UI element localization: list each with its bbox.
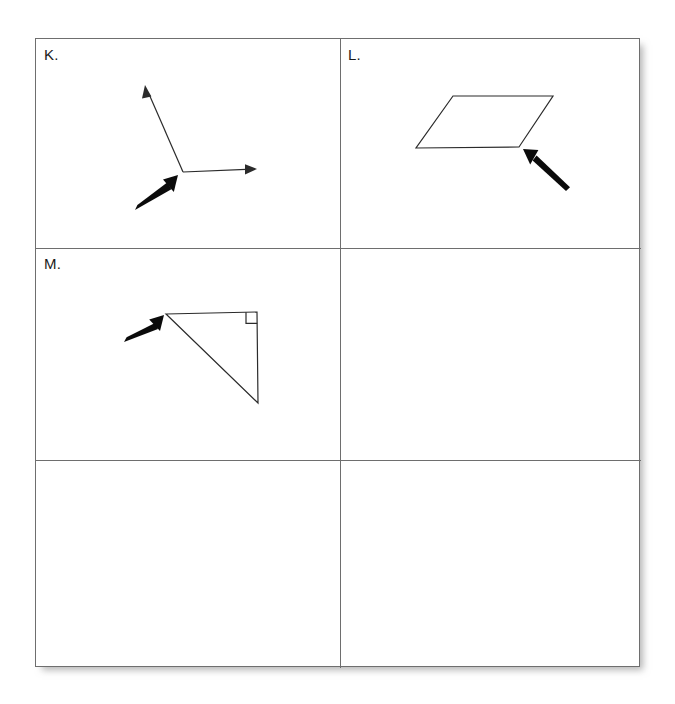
pointer-arrow-m xyxy=(124,315,164,342)
triangle-outline xyxy=(166,312,258,403)
pointer-arrow-l xyxy=(523,149,570,191)
grid-horizontal-divider-1 xyxy=(36,248,641,249)
cell-m[interactable]: M. xyxy=(36,248,340,460)
ray-up-left-arrowhead xyxy=(142,85,151,99)
figure-angle-k xyxy=(36,39,340,248)
pointer-arrow-k xyxy=(135,175,178,210)
right-angle-marker xyxy=(246,312,257,323)
figure-grid: K. L. xyxy=(36,39,639,666)
grid-horizontal-divider-2 xyxy=(36,460,641,461)
cell-l[interactable]: L. xyxy=(340,39,641,248)
ray-up-left-line xyxy=(149,94,183,172)
cell-blank-r2c0[interactable] xyxy=(36,460,340,668)
figure-parallelogram-l xyxy=(340,39,641,248)
worksheet-sheet: K. L. xyxy=(35,38,640,667)
figure-right-triangle-m xyxy=(36,248,340,460)
ray-right-line xyxy=(183,169,246,172)
cell-blank-r2c1[interactable] xyxy=(340,460,641,668)
ray-right-arrowhead xyxy=(245,164,257,174)
cell-k[interactable]: K. xyxy=(36,39,340,248)
grid-vertical-divider xyxy=(340,39,341,668)
parallelogram-outline xyxy=(416,96,553,148)
cell-blank-r1c1[interactable] xyxy=(340,248,641,460)
